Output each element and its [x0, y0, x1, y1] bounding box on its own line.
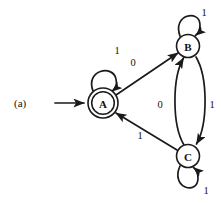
edge-b-to-b [179, 16, 200, 36]
panel-label: (a) [14, 97, 27, 110]
edge-label-c-to-b: 0 [157, 99, 162, 110]
automaton-canvas: A B C 1 0 1 1 0 1 1 (a) [0, 0, 221, 205]
edge-label-a-to-b: 0 [130, 57, 135, 68]
node-b[interactable]: B [177, 35, 200, 58]
node-c[interactable]: C [177, 145, 200, 168]
node-c-label: C [184, 151, 192, 163]
edge-a-to-b [116, 53, 178, 95]
edge-label-c-to-a: 1 [137, 130, 142, 141]
node-a-label: A [99, 98, 107, 110]
edge-c-to-a [116, 113, 177, 150]
edge-label-b-to-b: 1 [201, 7, 206, 18]
edge-label-c-to-c: 1 [203, 185, 208, 196]
edge-c-to-c [178, 166, 198, 188]
node-a[interactable]: A [88, 88, 118, 118]
automaton-figure: A B C 1 0 1 1 0 1 1 (a) [0, 0, 221, 205]
edge-c-to-b [175, 58, 184, 145]
edge-label-b-to-c: 1 [209, 99, 214, 110]
edge-b-to-c [196, 57, 205, 144]
edge-label-a-to-a: 1 [114, 45, 119, 56]
node-b-label: B [184, 41, 192, 53]
